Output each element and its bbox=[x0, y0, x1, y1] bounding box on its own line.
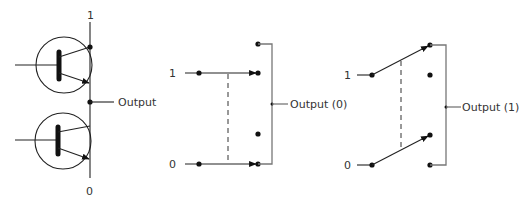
switch-output-0-panel: 1 0 Output (0) bbox=[169, 41, 347, 171]
input-1-label: 1 bbox=[344, 69, 351, 82]
supply-1-label: 1 bbox=[87, 9, 94, 22]
top-transistor-icon bbox=[15, 37, 93, 93]
transistor-pair-panel: 1 Output 0 bbox=[15, 9, 157, 198]
bottom-transistor-icon bbox=[15, 113, 91, 169]
output-1-label: Output (1) bbox=[462, 101, 519, 114]
diagram-canvas: 1 Output 0 1 0 bbox=[0, 0, 521, 206]
input-1-label: 1 bbox=[169, 67, 176, 80]
output-label: Output bbox=[118, 96, 157, 109]
input-0-label: 0 bbox=[169, 158, 176, 171]
output-0-label: Output (0) bbox=[290, 98, 347, 111]
input-0-label: 0 bbox=[344, 159, 351, 172]
switch-output-1-panel: 1 0 Output (1) bbox=[344, 42, 519, 172]
ground-0-label: 0 bbox=[86, 185, 93, 198]
output-rail bbox=[258, 44, 272, 164]
output-rail bbox=[430, 45, 446, 165]
